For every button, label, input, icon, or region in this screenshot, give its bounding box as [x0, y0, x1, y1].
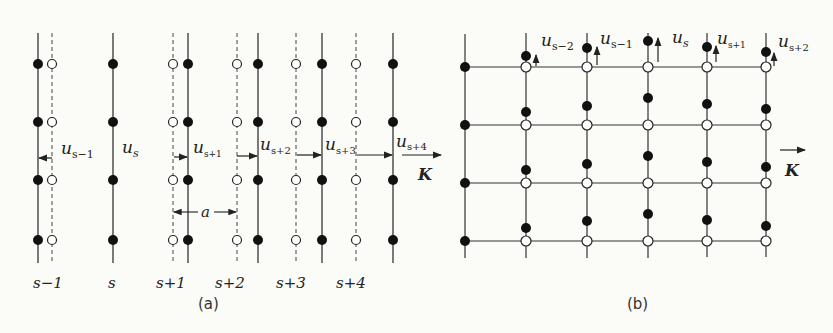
caption-b: (b) — [627, 295, 648, 313]
label-u-s-2-b: us−2 — [541, 30, 574, 53]
label-u-s+3: us+3 — [325, 134, 356, 156]
plane-label-s: s — [108, 274, 116, 292]
panel-a-longitudinal-wave: a us−1 us us+1 us+2 us+3 us+4 K s−1 s s+… — [33, 33, 441, 313]
label-u-s+1: us+1 — [193, 137, 222, 159]
label-u-s-b: us — [672, 27, 689, 50]
label-u-s+4: us+4 — [396, 131, 427, 152]
plane-label-s+1: s+1 — [156, 274, 186, 292]
label-u-s-1: us−1 — [61, 138, 94, 161]
plane-labels: s−1 s s+1 s+2 s+3 s+4 — [33, 274, 366, 292]
wavevector-label-a: K — [417, 165, 433, 184]
label-u-s: us — [122, 137, 139, 160]
label-u-s+2: us+2 — [260, 134, 291, 156]
plane-label-s+3: s+3 — [276, 274, 306, 292]
plane-label-s-1: s−1 — [33, 274, 63, 292]
plane-label-s+2: s+2 — [215, 274, 245, 292]
lattice-grid — [465, 33, 766, 258]
label-u-s+1-b: us+1 — [717, 28, 746, 50]
label-u-s-1-b: us−1 — [600, 28, 633, 51]
spacing-label-a: a — [201, 203, 210, 221]
displacement-arrows — [39, 155, 441, 158]
label-u-s+2-b: us+2 — [778, 31, 809, 53]
plane-label-s+4: s+4 — [336, 274, 366, 292]
equilibrium-planes — [52, 33, 356, 262]
phonon-diagram: a us−1 us us+1 us+2 us+3 us+4 K s−1 s s+… — [0, 0, 833, 333]
caption-a: (a) — [198, 295, 219, 313]
panel-b-transverse-wave: us−2 us−1 us us+1 us+2 K (b) — [460, 27, 809, 313]
wavevector-label-b: K — [784, 161, 800, 180]
